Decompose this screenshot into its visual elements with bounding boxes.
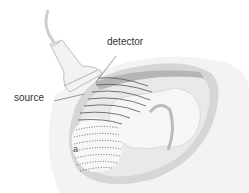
fetal-head <box>72 118 123 173</box>
source-label: source <box>14 92 44 103</box>
probe-cable <box>46 10 54 42</box>
fetus <box>109 88 200 149</box>
detector-label: detector <box>107 36 143 47</box>
edge-fragment-label: a <box>73 144 78 154</box>
